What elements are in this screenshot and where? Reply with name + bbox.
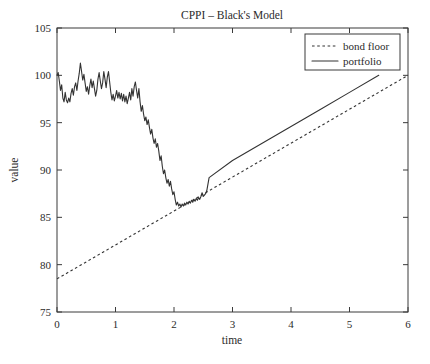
x-tick-label: 3 (230, 318, 236, 330)
legend-label-bond-floor[interactable]: bond floor (343, 40, 389, 52)
y-tick-label: 100 (35, 69, 52, 81)
x-tick-label: 1 (113, 318, 119, 330)
y-axis-label: value (8, 158, 20, 183)
x-tick-label: 4 (288, 318, 294, 330)
x-tick-label: 0 (54, 318, 60, 330)
cppi-black-model-chart: CPPI – Black's Model 0123456 75808590951… (0, 0, 430, 364)
x-tick-label: 6 (405, 318, 411, 330)
y-tick-label: 75 (40, 306, 52, 318)
y-tick-label: 95 (40, 117, 52, 129)
x-tick-label: 2 (171, 318, 177, 330)
legend-label-portfolio[interactable]: portfolio (343, 55, 382, 67)
y-tick-label: 80 (40, 259, 52, 271)
y-tick-label: 85 (40, 211, 52, 223)
chart-figure: CPPI – Black's Model 0123456 75808590951… (0, 0, 430, 364)
y-tick-label: 105 (35, 22, 52, 34)
x-axis-label: time (222, 334, 242, 346)
chart-title: CPPI – Black's Model (181, 9, 283, 21)
chart-legend[interactable]: bond floorportfolio (305, 34, 400, 70)
y-tick-label: 90 (40, 164, 52, 176)
x-tick-label: 5 (347, 318, 353, 330)
